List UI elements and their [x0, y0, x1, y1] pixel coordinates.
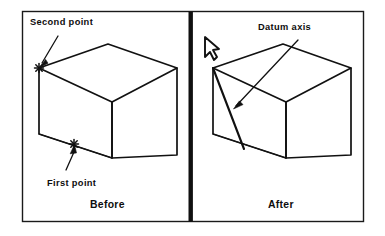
figure-frame	[23, 12, 364, 222]
technical-diagram: Second point First point Before D	[0, 0, 385, 236]
panel-divider	[189, 12, 193, 222]
before-caption: Before	[90, 199, 125, 210]
datum-axis-label: Datum axis	[258, 22, 311, 32]
figure-root: Second point First point Before D	[0, 0, 385, 236]
first-point-label: First point	[47, 178, 96, 188]
second-point-label: Second point	[30, 17, 93, 27]
after-caption: After	[268, 199, 294, 210]
